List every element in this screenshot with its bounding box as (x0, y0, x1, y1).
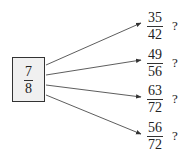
numerator: 56 (147, 121, 163, 136)
arrow-3 (46, 85, 141, 97)
denominator: 8 (24, 80, 33, 96)
target-fraction: 35 42 (147, 11, 163, 42)
arrow-1 (46, 23, 141, 65)
source-box: 7 8 (12, 57, 45, 102)
question-mark: ? (172, 56, 178, 69)
question-mark: ? (172, 19, 178, 32)
question-mark: ? (172, 92, 178, 105)
denominator: 72 (147, 136, 163, 152)
numerator: 49 (147, 48, 163, 63)
target-fraction: 49 56 (147, 48, 163, 79)
denominator: 72 (147, 99, 163, 115)
target-fraction: 63 72 (147, 84, 163, 115)
question-mark: ? (172, 129, 178, 142)
target-fraction: 56 72 (147, 121, 163, 152)
source-fraction: 7 8 (13, 65, 44, 96)
denominator: 42 (147, 26, 163, 42)
arrow-4 (46, 95, 141, 134)
arrow-2 (46, 60, 141, 75)
numerator: 63 (147, 84, 163, 99)
denominator: 56 (147, 63, 163, 79)
numerator: 35 (147, 11, 163, 26)
numerator: 7 (24, 65, 33, 80)
